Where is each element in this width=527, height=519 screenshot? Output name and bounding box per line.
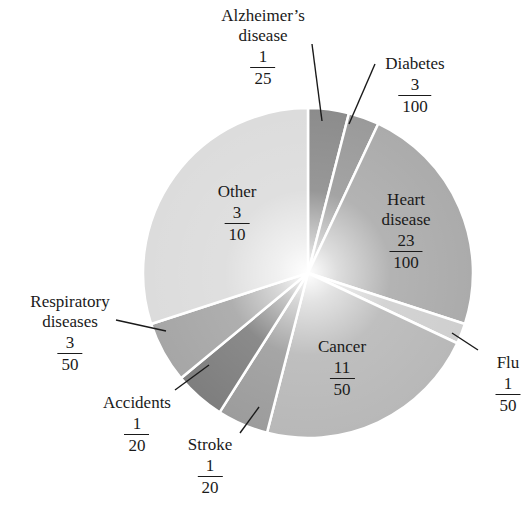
denominator: 50 bbox=[57, 354, 82, 374]
denominator: 50 bbox=[329, 379, 354, 399]
numerator: 1 bbox=[124, 414, 149, 435]
label-cancer: Cancer 1150 bbox=[318, 337, 366, 400]
label-name: Accidents bbox=[103, 393, 171, 413]
fraction: 120 bbox=[197, 456, 222, 497]
label-stroke: Stroke 120 bbox=[188, 435, 232, 498]
label-other: Other 310 bbox=[218, 182, 257, 245]
numerator: 3 bbox=[398, 75, 432, 96]
numerator: 1 bbox=[197, 456, 222, 477]
fraction: 150 bbox=[496, 374, 521, 415]
label-diabetes: Diabetes 3100 bbox=[385, 54, 444, 117]
numerator: 3 bbox=[57, 333, 82, 354]
denominator: 10 bbox=[225, 224, 250, 244]
denominator: 100 bbox=[398, 96, 432, 116]
denominator: 20 bbox=[124, 435, 149, 455]
denominator: 100 bbox=[389, 252, 423, 272]
label-name: Stroke bbox=[188, 435, 232, 455]
label-name: Other bbox=[218, 182, 257, 202]
label-flu: Flu 150 bbox=[496, 353, 521, 416]
denominator: 20 bbox=[197, 477, 222, 497]
label-name: Respiratory bbox=[30, 292, 109, 312]
fraction: 350 bbox=[57, 333, 82, 374]
label-name: Cancer bbox=[318, 337, 366, 357]
label-respiratory-diseases: Respiratory diseases 350 bbox=[30, 292, 109, 375]
label-name: disease bbox=[381, 210, 430, 230]
label-alzheimers: Alzheimer’s disease 125 bbox=[221, 6, 305, 89]
numerator: 11 bbox=[329, 358, 354, 379]
fraction: 120 bbox=[124, 414, 149, 455]
label-name: Diabetes bbox=[385, 54, 444, 74]
center-highlight bbox=[143, 108, 473, 438]
fraction: 1150 bbox=[329, 358, 354, 399]
label-name: Alzheimer’s bbox=[221, 6, 305, 26]
label-name: Heart bbox=[381, 190, 430, 210]
fraction: 23100 bbox=[389, 231, 423, 272]
label-name: diseases bbox=[30, 312, 109, 332]
numerator: 1 bbox=[496, 374, 521, 395]
leader-line-diabetes bbox=[349, 64, 375, 124]
label-heart-disease: Heart disease 23100 bbox=[381, 190, 430, 273]
fraction: 125 bbox=[251, 47, 276, 88]
numerator: 3 bbox=[225, 203, 250, 224]
fraction: 310 bbox=[225, 203, 250, 244]
denominator: 25 bbox=[251, 68, 276, 88]
denominator: 50 bbox=[496, 395, 521, 415]
fraction: 3100 bbox=[398, 75, 432, 116]
numerator: 1 bbox=[251, 47, 276, 68]
numerator: 23 bbox=[389, 231, 423, 252]
label-accidents: Accidents 120 bbox=[103, 393, 171, 456]
label-name: Flu bbox=[496, 353, 521, 373]
label-name: disease bbox=[221, 26, 305, 46]
